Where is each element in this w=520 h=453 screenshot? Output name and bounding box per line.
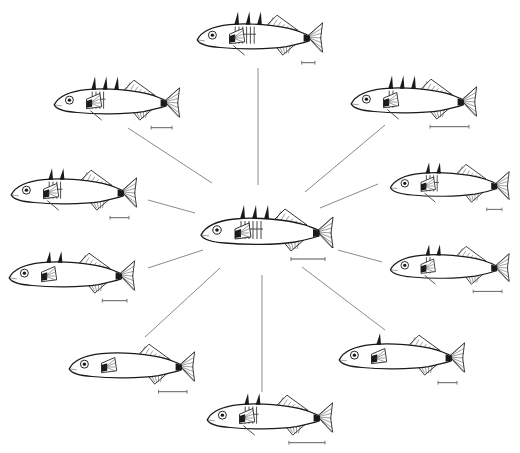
connector-line-upper-right bbox=[305, 125, 385, 192]
dorsal-spine-icon bbox=[48, 168, 53, 179]
connector-line-left-low bbox=[148, 250, 203, 268]
fish-bottom bbox=[207, 393, 332, 444]
dorsal-spine-icon bbox=[60, 168, 65, 179]
dorsal-spine-icon bbox=[246, 11, 251, 24]
connector-line-left-mid bbox=[148, 200, 195, 213]
connector-line-bottom-left bbox=[145, 268, 220, 337]
dorsal-spine-icon bbox=[103, 76, 108, 89]
dorsal-spine-icon bbox=[376, 333, 381, 344]
dorsal-spine-icon bbox=[114, 76, 119, 89]
dorsal-spine-icon bbox=[234, 11, 239, 24]
connector-line-upper-left bbox=[128, 128, 212, 183]
fish-illustrations bbox=[9, 11, 509, 444]
fish-right-low bbox=[390, 245, 509, 294]
dorsal-spine-icon bbox=[244, 393, 249, 404]
diagram-canvas bbox=[0, 0, 520, 453]
dorsal-spine-icon bbox=[46, 251, 51, 262]
fish-upper-right bbox=[351, 75, 476, 128]
fish-upper-left bbox=[54, 76, 179, 129]
fish-bottom-left bbox=[69, 344, 194, 393]
dorsal-spine-icon bbox=[240, 205, 245, 219]
dorsal-spine-icon bbox=[426, 163, 431, 174]
fish-left-low bbox=[9, 251, 134, 302]
dorsal-spine-icon bbox=[256, 393, 261, 404]
dorsal-spine-icon bbox=[411, 75, 416, 88]
fish-ancestral-center bbox=[201, 205, 333, 261]
dorsal-spine-icon bbox=[436, 163, 441, 174]
dorsal-spine-icon bbox=[257, 11, 262, 24]
connector-line-right-low bbox=[338, 250, 382, 262]
stickleback-radiation-diagram bbox=[0, 0, 520, 453]
dorsal-spine-icon bbox=[252, 205, 257, 219]
dorsal-spine-icon bbox=[58, 251, 63, 262]
connector-line-bottom-right bbox=[302, 267, 385, 330]
fish-bottom-right bbox=[339, 333, 464, 384]
dorsal-spine-icon bbox=[91, 76, 96, 89]
dorsal-spine-icon bbox=[426, 245, 431, 256]
connector-line-right-mid bbox=[320, 184, 378, 208]
dorsal-spine-icon bbox=[388, 75, 393, 88]
fish-right-mid bbox=[390, 163, 509, 212]
dorsal-spine-icon bbox=[436, 245, 441, 256]
dorsal-spine-icon bbox=[400, 75, 405, 88]
fish-top bbox=[197, 11, 322, 64]
fish-left-mid bbox=[11, 168, 136, 219]
dorsal-spine-icon bbox=[264, 205, 269, 219]
